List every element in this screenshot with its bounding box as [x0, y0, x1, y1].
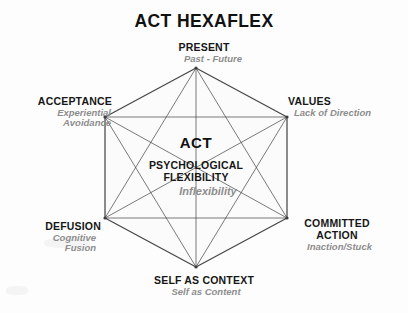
center-line-2: FLEXIBILITY: [104, 171, 288, 183]
hexagon-vertex-defusion: [103, 216, 106, 219]
node-acceptance: ACCEPTANCE Experiential Avoidance: [0, 96, 112, 129]
node-present-sublabel: Past - Future: [9, 54, 408, 65]
node-self-as-context: SELF AS CONTEXT Self as Content: [0, 275, 408, 297]
center-label-block: ACT PSYCHOLOGICAL FLEXIBILITY Inflexibil…: [104, 134, 288, 198]
hexagon-vertex-present: [194, 66, 197, 69]
node-defusion: DEFUSION Cognitive Fusion: [0, 221, 101, 254]
node-values: VALUES Lack of Direction: [288, 96, 408, 118]
node-present: PRESENT Past - Future: [0, 42, 408, 64]
center-contrast-label: Inflexibility: [116, 185, 300, 198]
node-committed-label: COMMITTED: [289, 218, 385, 230]
center-acronym: ACT: [104, 134, 288, 152]
node-acceptance-sublabel-2: Avoidance: [0, 118, 111, 129]
node-selfcontext-label: SELF AS CONTEXT: [0, 275, 408, 287]
node-committed-action: COMMITTED ACTION Inaction/Stuck: [289, 218, 408, 252]
page-title: ACT HEXAFLEX: [0, 11, 408, 32]
node-values-label: VALUES: [288, 96, 408, 108]
hexagon-vertex-selfcontext: [194, 265, 197, 268]
node-selfcontext-sublabel: Self as Content: [2, 287, 408, 298]
node-values-sublabel: Lack of Direction: [294, 108, 408, 119]
hexaflex-diagram: ACT HEXAFLEX PRESENT Past - Future ACCEP…: [0, 0, 408, 313]
node-committed-sublabel: Inaction/Stuck: [289, 242, 390, 253]
node-defusion-sublabel-2: Fusion: [0, 243, 96, 254]
center-line-1: PSYCHOLOGICAL: [104, 159, 288, 171]
node-committed-label-2: ACTION: [289, 230, 385, 242]
node-present-label: PRESENT: [0, 42, 408, 54]
node-acceptance-label: ACCEPTANCE: [0, 96, 112, 108]
node-defusion-label: DEFUSION: [0, 221, 101, 233]
